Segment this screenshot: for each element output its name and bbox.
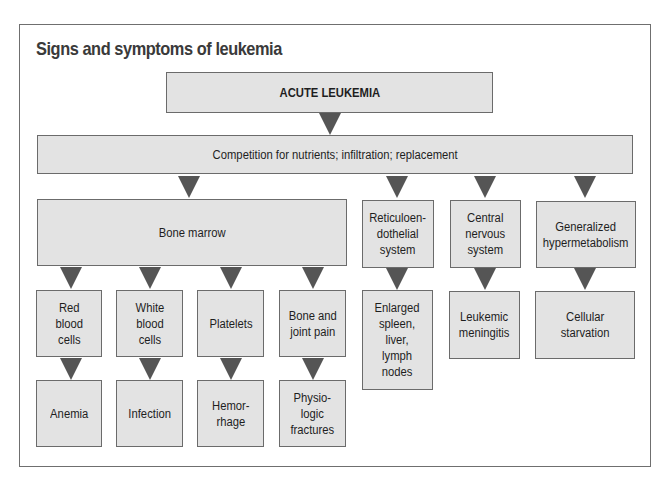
node-hemorrhage: Hemor- rhage: [197, 380, 264, 447]
node-label: Infection: [128, 406, 171, 422]
arrow-down-icon: [139, 358, 161, 380]
node-infection: Infection: [116, 380, 183, 447]
node-label: Leukemic meningitis: [459, 309, 510, 341]
node-acute-leukemia: ACUTE LEUKEMIA: [166, 72, 493, 113]
node-platelets: Platelets: [197, 290, 264, 357]
node-label: Cellular starvation: [561, 309, 610, 341]
node-bone-marrow: Bone marrow: [37, 199, 347, 266]
node-label: Enlarged spleen, liver, lymph nodes: [375, 300, 420, 380]
node-anemia: Anemia: [36, 380, 102, 447]
arrow-down-icon: [574, 268, 596, 290]
node-label: Physio- logic fractures: [291, 390, 335, 438]
node-label: Red blood cells: [55, 300, 83, 348]
node-reticuloendothelial: Reticuloen- dothelial system: [362, 200, 434, 268]
arrow-down-icon: [220, 358, 242, 380]
diagram-title: Signs and symptoms of leukemia: [36, 38, 282, 60]
node-label: ACUTE LEUKEMIA: [279, 85, 380, 101]
node-label: Generalized hypermetabolism: [543, 219, 629, 251]
node-bone-joint-pain: Bone and joint pain: [279, 290, 346, 357]
arrow-down-icon: [139, 267, 161, 289]
node-label: White blood cells: [135, 300, 164, 348]
arrow-down-icon: [178, 176, 200, 198]
node-leukemic-meningitis: Leukemic meningitis: [449, 291, 520, 359]
arrow-down-icon: [319, 113, 341, 135]
arrow-down-icon: [474, 176, 496, 198]
node-red-blood-cells: Red blood cells: [36, 290, 102, 357]
arrow-down-icon: [574, 176, 596, 198]
node-cns: Central nervous system: [450, 200, 521, 268]
node-label: Central nervous system: [465, 210, 505, 258]
node-cellular-starvation: Cellular starvation: [535, 291, 635, 359]
node-physiologic-fractures: Physio- logic fractures: [279, 380, 346, 447]
node-enlarged-organs: Enlarged spleen, liver, lymph nodes: [362, 290, 433, 390]
arrow-down-icon: [386, 268, 408, 290]
node-label: Competition for nutrients; infiltration;…: [212, 147, 457, 163]
node-label: Anemia: [50, 406, 88, 422]
node-label: Reticuloen- dothelial system: [370, 210, 427, 258]
arrow-down-icon: [302, 358, 324, 380]
node-hypermetabolism: Generalized hypermetabolism: [536, 201, 636, 268]
node-label: Bone and joint pain: [288, 308, 336, 340]
node-label: Hemor- rhage: [212, 398, 250, 430]
node-white-blood-cells: White blood cells: [116, 290, 183, 357]
arrow-down-icon: [60, 358, 82, 380]
arrow-down-icon: [220, 267, 242, 289]
node-mechanism: Competition for nutrients; infiltration;…: [37, 135, 633, 174]
node-label: Platelets: [209, 316, 252, 332]
arrow-down-icon: [474, 268, 496, 290]
arrow-down-icon: [302, 267, 324, 289]
node-label: Bone marrow: [159, 225, 226, 241]
arrow-down-icon: [386, 176, 408, 198]
arrow-down-icon: [60, 267, 82, 289]
